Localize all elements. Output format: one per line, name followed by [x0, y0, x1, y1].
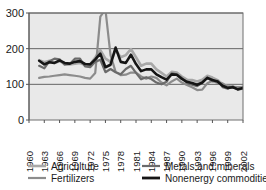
legend-label-3: Nonenergy commodities — [165, 173, 266, 184]
plot-background — [29, 13, 243, 120]
x-tick-label: 1981 — [131, 151, 142, 172]
x-tick-label: 1975 — [100, 151, 111, 172]
x-tick-label: 1960 — [24, 151, 35, 172]
line-chart: 0100200300 19601963196619691972197519781… — [0, 0, 266, 190]
y-tick-label: 300 — [6, 7, 24, 19]
chart-container: 0100200300 19601963196619691972197519781… — [0, 0, 266, 190]
y-tick-label: 100 — [6, 78, 24, 90]
x-tick-label: 1963 — [39, 151, 50, 172]
x-tick-label: 1984 — [146, 151, 157, 172]
legend-label-0: Agriculture — [51, 161, 99, 172]
legend-label-2: Fertilizers — [51, 173, 94, 184]
x-tick-label: 1978 — [115, 151, 126, 172]
legend-label-1: Metals and minerals — [165, 161, 254, 172]
y-axis-ticks: 0100200300 — [6, 7, 29, 126]
y-tick-label: 0 — [18, 114, 24, 126]
y-tick-label: 200 — [6, 43, 24, 55]
